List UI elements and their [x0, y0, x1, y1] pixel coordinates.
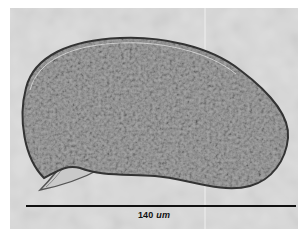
micrograph-frame: 140 um — [10, 8, 298, 229]
scale-bar-unit: um — [156, 210, 170, 220]
scale-bar-label: 140 um — [10, 210, 298, 220]
scale-bar-value: 140 — [138, 210, 154, 220]
micrograph — [10, 8, 298, 229]
